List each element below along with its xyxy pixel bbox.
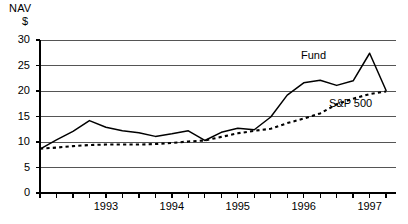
series-label-fund: Fund xyxy=(301,49,326,61)
series-label-sp500: S&P 500 xyxy=(329,97,372,109)
chart-container: NAV $ 051015202530 19931994199519961997 … xyxy=(0,0,408,224)
plot-area xyxy=(0,0,408,224)
